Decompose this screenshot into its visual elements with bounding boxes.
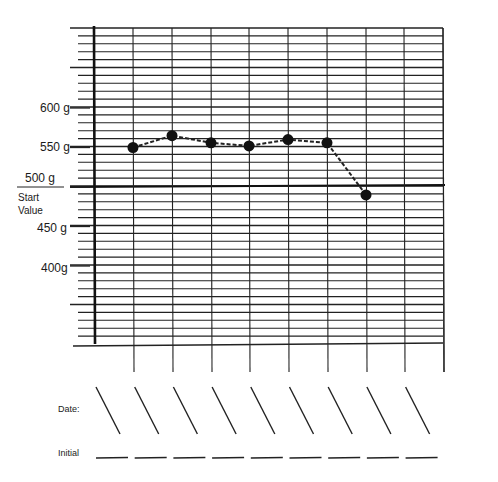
initial-entry-blank [290, 458, 322, 459]
initial-entry-blank [135, 458, 167, 459]
initial-entry-blank [212, 458, 244, 459]
date-entry-slash [328, 387, 352, 434]
initial-entry-blank [173, 458, 205, 459]
data-point-marker [283, 134, 294, 145]
data-point-marker [128, 142, 139, 153]
data-point-marker [361, 189, 372, 200]
y-tick-label-500: 500 g [25, 171, 55, 185]
start-value-label-line2: Value [18, 205, 43, 216]
initial-entry-blank [251, 458, 283, 459]
date-entry-slash [96, 387, 120, 434]
x-axis-baseline [73, 343, 443, 346]
date-entry-slash [406, 387, 430, 434]
data-point-marker [244, 140, 255, 151]
y-axis [94, 26, 95, 344]
right-border [443, 28, 444, 372]
y-tick-label-450: 450 g [37, 221, 67, 235]
date-entry-slash [290, 387, 314, 434]
start-value-label-line1: Start [18, 192, 39, 203]
data-point-marker [322, 137, 333, 148]
date-entry-slash [173, 387, 197, 434]
data-point-marker [167, 130, 178, 141]
date-entry-slash [251, 387, 275, 434]
initial-label: Initial [58, 448, 86, 458]
y-tick-label-600: 600 g [40, 101, 70, 115]
date-entry-slash [367, 387, 391, 434]
date-label: Date: [58, 404, 80, 414]
y-tick-label-400: 400g [41, 261, 68, 275]
date-entry-slash [212, 387, 236, 434]
initial-entry-blank [328, 458, 360, 459]
data-point-marker [206, 137, 217, 148]
initial-entry-blank [406, 458, 438, 459]
y-tick-label-550: 550 g [40, 140, 70, 154]
date-entry-slash [135, 387, 159, 434]
initial-entry-blank [96, 458, 128, 459]
start-value-line [70, 185, 445, 187]
initial-entry-blank [367, 458, 399, 459]
